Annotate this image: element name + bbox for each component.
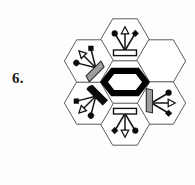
puzzle-root: 6. bbox=[0, 0, 195, 185]
hexagon-matrix-figure bbox=[0, 0, 195, 185]
hexagon-grid bbox=[0, 0, 195, 185]
